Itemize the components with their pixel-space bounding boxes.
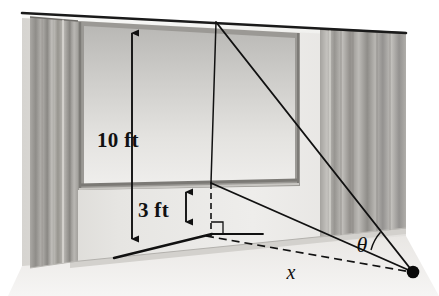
room-geometry-diagram: 10 ft 3 ft x θ	[0, 0, 439, 296]
label-x-distance: x	[286, 261, 296, 283]
left-curtain	[30, 17, 78, 268]
right-curtain	[320, 29, 406, 237]
screen-surface	[84, 26, 295, 185]
label-theta-angle: θ	[357, 232, 368, 257]
label-10ft: 10 ft	[97, 128, 139, 152]
observer-eye-point	[407, 266, 420, 279]
figure-root: 10 ft 3 ft x θ	[0, 0, 439, 296]
label-3ft: 3 ft	[138, 198, 169, 222]
